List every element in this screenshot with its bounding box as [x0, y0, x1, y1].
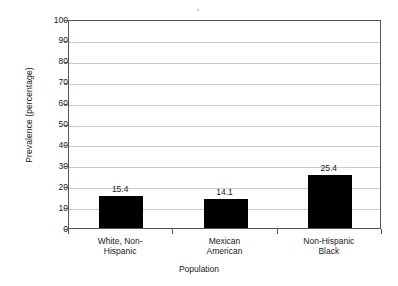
plot-area	[68, 20, 381, 229]
bar-value-label: 15.4	[90, 185, 150, 194]
x-category-label: Non-HispanicBlack	[279, 236, 379, 256]
bar-value-label: 14.1	[195, 188, 255, 197]
x-tick-mark	[172, 229, 173, 234]
x-tick-mark	[68, 229, 69, 234]
x-category-label: White, Non-Hispanic	[70, 236, 170, 256]
gridline	[69, 146, 380, 147]
gridline	[69, 42, 380, 43]
x-category-label-line: Hispanic	[70, 246, 170, 256]
bar	[204, 199, 248, 228]
x-category-label: MexicanAmerican	[175, 236, 275, 256]
x-tick-mark	[381, 229, 382, 234]
x-category-label-line: White, Non-	[70, 236, 170, 246]
bar-value-label: 25.4	[299, 164, 359, 173]
bar-chart: Prevalence (percentage) 1009080706050403…	[0, 0, 398, 286]
scan-artifact-speck	[197, 9, 199, 11]
x-axis-title: Population	[0, 264, 398, 274]
bar	[308, 175, 352, 228]
x-category-label-line: Mexican	[175, 236, 275, 246]
x-category-label-line: Black	[279, 246, 379, 256]
gridline	[69, 84, 380, 85]
x-category-label-line: American	[175, 246, 275, 256]
gridline	[69, 126, 380, 127]
x-tick-mark	[277, 229, 278, 234]
x-category-label-line: Non-Hispanic	[279, 236, 379, 246]
y-axis-ticks: 1009080706050403020100	[36, 20, 68, 229]
y-axis-title: Prevalence (percentage)	[24, 20, 34, 210]
gridline	[69, 105, 380, 106]
bar	[99, 196, 143, 228]
gridline	[69, 63, 380, 64]
